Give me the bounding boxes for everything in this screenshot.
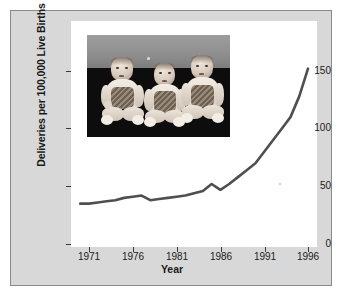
infant-right-arm-l [181,83,191,106]
infant-middle-foot-l [144,117,156,127]
infant-left-mouth [119,75,124,77]
infant-left-hand [104,101,112,109]
infant-left [101,57,145,133]
infant-left-hair [111,57,133,65]
infant-middle-hair [154,63,175,70]
infant-middle-eye-r [168,72,171,74]
infant-left-eye-r [125,67,128,69]
infant-right-eye-l [196,65,199,67]
infant-right-foot-r [212,113,224,123]
infant-middle-eye-l [159,72,162,74]
infant-middle-arm-l [144,89,154,111]
inset-photo-triplets [87,35,230,137]
infant-right-hair [191,55,213,63]
infant-right-arm-r [214,83,224,106]
infant-left-outfit [111,87,134,109]
infant-right-eye-r [205,65,208,67]
scan-artifact-dot [279,183,281,185]
infant-right [181,55,225,133]
infant-right-foot-l [181,113,193,123]
infant-left-foot-l [101,115,113,125]
figure-root: Deliveries per 100,000 Live Births 150 1… [0,0,351,300]
infant-right-mouth [199,73,204,75]
infant-middle-mouth [162,80,167,82]
chart-panel: Deliveries per 100,000 Live Births 150 1… [10,10,332,286]
infant-left-eye-l [116,67,119,69]
